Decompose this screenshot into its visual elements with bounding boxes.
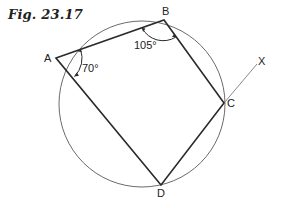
point-label-a: A: [44, 52, 52, 64]
cyclic-quadrilateral-diagram: A B C D X 70° 105°: [0, 0, 282, 208]
point-label-b: B: [162, 5, 169, 17]
angle-label-a: 70°: [82, 62, 99, 74]
point-label-x: X: [258, 55, 266, 67]
point-label-c: C: [227, 97, 235, 109]
angle-label-b: 105°: [134, 39, 157, 51]
point-label-d: D: [157, 187, 165, 199]
arrowhead-a-bottom: [75, 73, 80, 77]
